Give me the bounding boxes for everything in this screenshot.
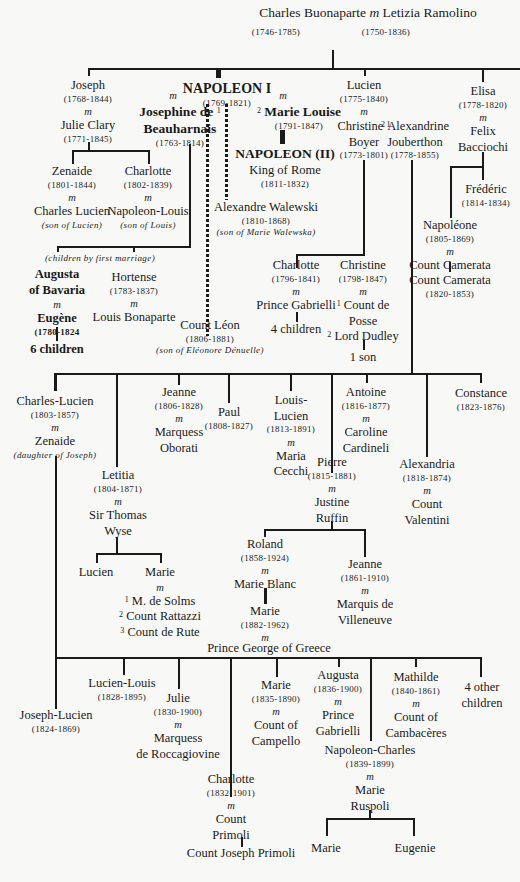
- lucien-louis-drop: [123, 657, 125, 675]
- marie-campello-drop: [276, 657, 278, 677]
- joseph-lucien-node: Joseph-Lucien (1824-1869): [14, 708, 98, 735]
- other-children-drop: [480, 657, 482, 677]
- lucien-jr-drop: [96, 553, 98, 563]
- constance-node: Constance (1823-1876): [446, 386, 516, 413]
- root-descent-line: [332, 50, 334, 70]
- augusta-gabrielli-drop: [338, 657, 340, 667]
- marie-ruspoli-drop: [326, 818, 328, 836]
- eugene-drop: [57, 246, 59, 252]
- christine-son: 1 son: [320, 350, 406, 366]
- count-joseph-primoli: Count Joseph Primoli: [180, 846, 302, 862]
- christine-boyer-descent: [363, 160, 365, 256]
- charles-dates: (1746-1785): [236, 27, 316, 38]
- letizia-ramolino: Letizia Ramolino: [383, 5, 477, 20]
- zenaide-drop: [72, 150, 74, 164]
- joseph-drop: [88, 68, 90, 76]
- camerata-child-node: Count Camerata (1820-1853): [404, 273, 496, 300]
- marie-wyse-node: Marie m 1 M. de Solms 2 Count Rattazzi 3…: [116, 565, 204, 641]
- antoine-drop: [366, 373, 368, 383]
- charles-lucien-drop: [54, 373, 57, 391]
- louis-lucien-drop: [290, 373, 292, 391]
- letitia-drop: [116, 373, 118, 467]
- marie-campello-node: Marie (1835-1890) m Count of Campello: [244, 678, 308, 749]
- joseph-node: Joseph (1768-1844) m Julie Clary (1771-1…: [48, 78, 128, 145]
- julie-drop: [178, 657, 180, 689]
- napoleon-ii-node: NAPOLEON (II) King of Rome (1811-1832): [230, 146, 340, 190]
- marie-roland-node: Marie (1882-1962) m: [204, 604, 326, 644]
- pierre-children-bar: [264, 529, 366, 531]
- lucien-second-children-bar: [55, 373, 482, 375]
- marie-ruspoli-child: Marie: [306, 841, 346, 857]
- charlotte-joseph-node: Charlotte (1802-1839) m Napoleon-Louis (…: [100, 164, 196, 231]
- prince-george-node: Prince George of Greece: [194, 641, 344, 657]
- walewski-node: Alexandre Walewski (1810-1868) (son of M…: [206, 200, 326, 238]
- josephine-node: Josephine de 1 Beauharnais (1763-1814): [130, 104, 230, 149]
- charles-lucien-children-descent: [55, 456, 57, 658]
- eugene-children: 6 children: [22, 342, 92, 358]
- generation1-bar: [88, 68, 520, 70]
- hortense-drop: [133, 246, 135, 252]
- joseph-children-bar: [72, 150, 150, 152]
- frederic-node: Frédéric (1814-1834): [456, 182, 516, 209]
- napoleone-drop: [450, 166, 452, 218]
- lucien-drop: [364, 68, 366, 76]
- napoleone-node: Napoléone (1805-1869) m Count Camerata: [404, 218, 496, 274]
- joseph-lucien-drop: [55, 657, 57, 709]
- lucien-first-children-bar: [296, 254, 365, 256]
- other-children-node: 4 other children: [454, 680, 510, 711]
- letitia-node: Letitia (1804-1871) m Sir Thomas Wyse: [78, 468, 158, 539]
- charles-lucien-node: Charles-Lucien (1803-1857) m Zenaide (da…: [6, 394, 104, 461]
- charlotte-primoli-node: Charlotte (1832-1901) m Count Primoli: [206, 772, 256, 843]
- roland-node: Roland (1858-1924) m Marie Blanc: [224, 537, 306, 593]
- christine-node: Christine (1798-1847) m 1 Count de Posse…: [320, 258, 406, 345]
- mathilde-node: Mathilde (1840-1861) m Count of Cambacèr…: [376, 670, 456, 741]
- julie-node: Julie (1830-1900) m Marquess de Roccagio…: [128, 691, 228, 762]
- alexandria-node: Alexandria (1818-1874) m Count Valentini: [392, 457, 462, 528]
- jeanne-drop: [178, 373, 180, 385]
- root-couple: Charles Buonaparte m Letizia Ramolino: [228, 5, 508, 22]
- lucien-wyse-node: Lucien: [76, 565, 116, 581]
- elisa-drop: [482, 68, 484, 82]
- napoleon-charles-children-bar: [326, 818, 415, 820]
- napoleon-josephine-m: m: [167, 89, 179, 102]
- pierre-node: Pierre (1815-1881) m Justine Ruffin: [300, 455, 364, 526]
- first-marriage-note: (children by first marriage): [40, 253, 160, 264]
- charlotte-drop: [148, 150, 150, 164]
- jeanne-villeneuve-drop: [364, 529, 366, 557]
- eugenie-drop: [413, 818, 415, 836]
- alexandria-drop: [426, 373, 428, 457]
- josephine-children-bar: [57, 246, 191, 248]
- roland-drop: [264, 529, 266, 537]
- mathilde-drop: [415, 657, 417, 667]
- lucien-node: Lucien (1775-1840) m: [324, 78, 404, 118]
- charles-buonaparte: Charles Buonaparte: [259, 5, 366, 20]
- marriage-mark: m: [369, 5, 379, 20]
- paul-node: Paul (1808-1827): [198, 405, 260, 432]
- letizia-dates: (1750-1836): [346, 27, 426, 38]
- elisa-children-bar: [450, 166, 484, 168]
- elisa-node: Elisa (1778-1820) m Felix Bacciochi: [452, 84, 514, 155]
- antoine-node: Antoine (1816-1877) m Caroline Cardineli: [334, 385, 398, 456]
- eugenie-node: Eugenie: [390, 841, 440, 857]
- napoleon-charles-drop: [370, 657, 372, 741]
- marie-wyse-drop: [160, 553, 162, 563]
- constance-drop: [480, 373, 482, 383]
- napoleon-drop: [216, 68, 221, 78]
- napoleon-marie-louise-m: m: [277, 89, 289, 102]
- eugene-node: Augusta of Bavaria m Eugène (1780-1824: [22, 267, 92, 338]
- napoleon-charles-node: Napoleon-Charles (1839-1899) m Marie Rus…: [320, 743, 420, 814]
- letitia-children-bar: [96, 553, 162, 555]
- augusta-gabrielli-node: Augusta (1836-1900) m Prince Gabrielli: [306, 668, 370, 739]
- charles-lucien-children-bar: [55, 657, 482, 659]
- jeanne-villeneuve-node: Jeanne (1861-1910) m Marquis de Villeneu…: [330, 557, 400, 628]
- paul-drop: [228, 373, 230, 403]
- alexandrine-node: 2 Alexandrine Jouberthon (1778-1855): [370, 119, 460, 162]
